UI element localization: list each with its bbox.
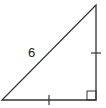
right-angle-marker xyxy=(87,91,96,100)
triangle xyxy=(2,5,96,100)
hypotenuse-label: 6 xyxy=(28,45,35,60)
triangle-diagram: 6 xyxy=(0,0,106,108)
